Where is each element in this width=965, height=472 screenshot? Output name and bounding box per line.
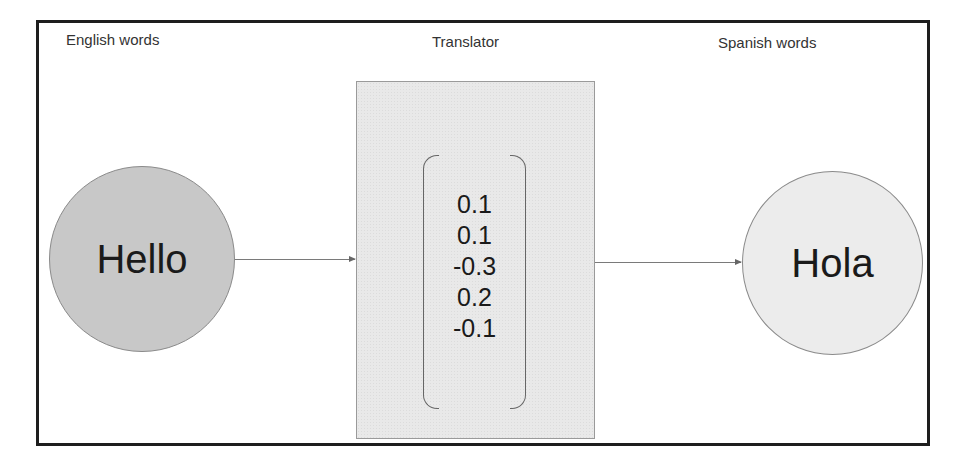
translator-label: Translator: [432, 33, 499, 50]
spanish-words-label: Spanish words: [718, 34, 816, 51]
hello-word: Hello: [96, 237, 187, 282]
vector-value: 0.1: [423, 220, 526, 251]
vector-value: 0.2: [423, 282, 526, 313]
english-words-label: English words: [66, 31, 159, 48]
vector-value: 0.1: [423, 189, 526, 220]
vector-value: -0.3: [423, 251, 526, 282]
vector-bracket: 0.1 0.1 -0.3 0.2 -0.1: [423, 155, 526, 409]
hola-word: Hola: [791, 241, 873, 286]
hello-node: Hello: [49, 166, 235, 352]
embedding-vector: 0.1 0.1 -0.3 0.2 -0.1: [423, 189, 526, 344]
arrow-hello-to-translator: [235, 259, 355, 260]
vector-value: -0.1: [423, 313, 526, 344]
hola-node: Hola: [742, 171, 923, 355]
arrow-translator-to-hola: [595, 262, 741, 263]
